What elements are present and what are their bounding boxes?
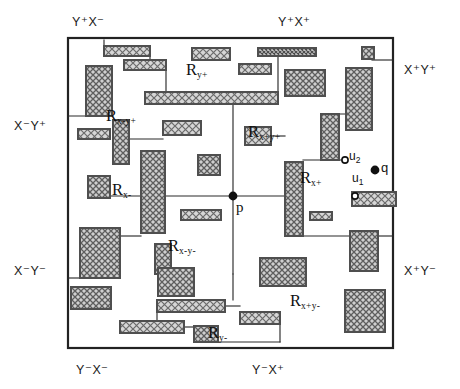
rect-15 <box>141 151 165 233</box>
point-label-text: u <box>352 171 359 185</box>
rect-13 <box>163 121 201 135</box>
rect-10 <box>362 47 374 59</box>
point-label-q: q <box>381 161 388 174</box>
region-base: R <box>208 323 219 342</box>
point-u1 <box>352 193 358 199</box>
rect-19 <box>88 176 110 198</box>
region-subscript: x-y- <box>179 246 196 256</box>
rect-26 <box>71 287 111 309</box>
region-subscript: x-y+ <box>117 116 136 126</box>
rect-32 <box>240 312 280 324</box>
axis-label-bottom-right: Y⁻X⁺ <box>252 364 285 377</box>
rect-23 <box>352 192 396 206</box>
axis-label-left-bottom: X⁻Y⁻ <box>14 265 47 278</box>
region-base: R <box>186 60 197 79</box>
rect-01 <box>104 46 150 56</box>
rect-27 <box>158 268 194 296</box>
rect-04 <box>192 48 230 60</box>
region-subscript: y+ <box>197 70 208 80</box>
rect-20 <box>181 210 221 220</box>
point-label-text: p <box>236 199 244 215</box>
rect-30 <box>120 321 184 333</box>
region-label-R-x-plus-y-minus: Rx+y- <box>290 293 320 312</box>
point-q <box>371 166 378 173</box>
region-base: R <box>290 291 301 310</box>
region-base: R <box>300 168 311 187</box>
axis-label-text: X⁻Y⁺ <box>14 119 47 133</box>
axis-label-text: Y⁺X⁻ <box>72 15 105 29</box>
point-subscript: 2 <box>356 155 361 165</box>
axis-label-right-bottom: X⁺Y⁻ <box>404 265 437 278</box>
axis-label-top-left: Y⁺X⁻ <box>72 16 105 29</box>
rect-06 <box>239 64 271 74</box>
rect-17 <box>321 114 339 160</box>
region-base: R <box>168 236 179 255</box>
region-label-R-x-plus: Rx+ <box>300 170 322 189</box>
point-u2 <box>342 157 348 163</box>
region-subscript: x+y+ <box>259 132 280 142</box>
point-label-text: u <box>349 149 356 163</box>
rect-28 <box>260 258 306 286</box>
rect-24 <box>310 212 332 220</box>
axis-label-text: X⁺Y⁺ <box>404 63 437 77</box>
rect-05 <box>258 48 316 56</box>
region-label-R-x-plus-y-plus: Rx+y+ <box>248 124 280 143</box>
axis-label-right-top: X⁺Y⁺ <box>404 64 437 77</box>
rect-09 <box>346 68 372 130</box>
axis-label-text: Y⁻X⁺ <box>252 363 285 377</box>
region-label-R-y-plus: Ry+ <box>186 62 208 81</box>
point-label-u2: u2 <box>349 150 360 165</box>
region-label-R-y-minus: Ry- <box>208 325 228 344</box>
axis-label-text: X⁻Y⁻ <box>14 264 47 278</box>
region-subscript: x- <box>123 190 132 200</box>
region-subscript: y- <box>219 333 228 343</box>
geometry-figure <box>0 0 460 389</box>
region-base: R <box>112 180 123 199</box>
axis-label-bottom-left: Y⁻X⁻ <box>76 364 109 377</box>
axis-label-text: X⁺Y⁻ <box>404 264 437 278</box>
rect-08 <box>285 70 325 96</box>
region-label-R-x-minus-y-minus: Rx-y- <box>168 238 196 257</box>
region-subscript: x+ <box>311 178 322 188</box>
rect-25 <box>350 231 378 271</box>
point-label-text: q <box>381 160 388 175</box>
rect-33 <box>345 290 385 332</box>
point-label-u1: u1 <box>352 172 363 187</box>
rect-21 <box>80 228 120 278</box>
axis-label-left-top: X⁻Y⁺ <box>14 120 47 133</box>
rect-29 <box>157 300 225 312</box>
axis-label-top-right: Y⁺X⁺ <box>278 16 311 29</box>
axis-label-text: Y⁺X⁺ <box>278 15 311 29</box>
rect-16 <box>198 155 220 175</box>
figure-canvas: Y⁺X⁻Y⁺X⁺X⁺Y⁺X⁻Y⁺X⁻Y⁻X⁺Y⁻Y⁻X⁻Y⁻X⁺Ry+Rx-y+… <box>0 0 460 389</box>
point-label-p: p <box>236 200 244 215</box>
region-base: R <box>248 122 259 141</box>
rect-12 <box>113 120 129 164</box>
region-subscript: x+y- <box>301 301 320 311</box>
axis-label-text: Y⁻X⁻ <box>76 363 109 377</box>
point-subscript: 1 <box>359 177 364 187</box>
rect-02 <box>124 60 166 70</box>
region-label-R-x-minus-y-plus: Rx-y+ <box>106 108 136 127</box>
region-base: R <box>106 106 117 125</box>
rect-11 <box>78 129 110 139</box>
region-label-R-x-minus: Rx- <box>112 182 132 201</box>
rect-07 <box>145 92 278 104</box>
